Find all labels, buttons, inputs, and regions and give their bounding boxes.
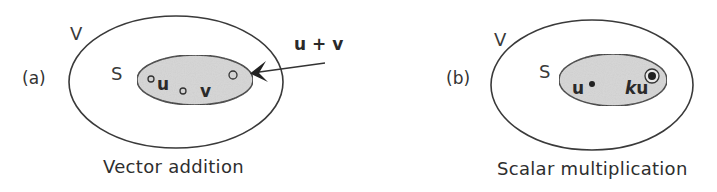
scaled-vector-ku-label: ku: [625, 78, 648, 98]
subspace-S-label: S: [539, 61, 550, 82]
vector-sum-label: u + v: [294, 34, 343, 54]
vector-u-label: u: [572, 78, 584, 98]
subspace-closure-diagram: (a) V S u v u + v Vector addition (b) V …: [0, 0, 717, 192]
vector-space-V-label: V: [494, 29, 507, 50]
panel-b-scalar-multiplication: (b) V S u ku Scalar multiplication: [446, 20, 693, 179]
vector-u-label: u: [157, 74, 169, 94]
panel-b-label: (b): [446, 68, 470, 88]
vector-u-filled-dot-icon: [589, 81, 595, 87]
panel-a-vector-addition: (a) V S u v u + v Vector addition: [22, 16, 343, 177]
subspace-S-label: S: [111, 63, 122, 84]
vector-space-V-label: V: [70, 23, 83, 44]
panel-a-label: (a): [22, 68, 46, 88]
vector-v-label: v: [200, 81, 211, 101]
scaled-vector-target-dot-icon: [648, 72, 656, 80]
caption-vector-addition: Vector addition: [103, 156, 244, 177]
caption-scalar-multiplication: Scalar multiplication: [497, 158, 688, 179]
